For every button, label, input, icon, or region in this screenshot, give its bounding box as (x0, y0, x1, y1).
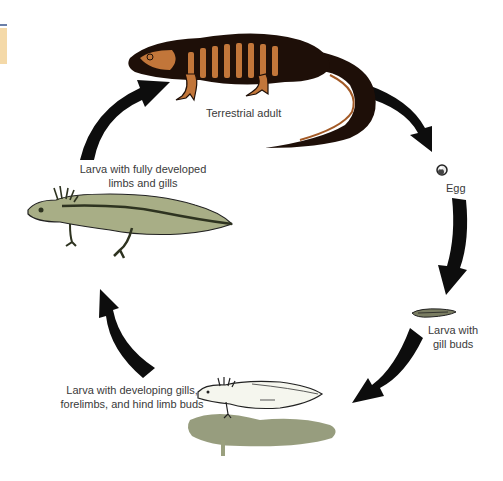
label-line: forelimbs, and hind limb buds (52, 397, 212, 411)
egg-icon (437, 165, 447, 175)
arrow-fully-to-adult (80, 80, 170, 160)
larva-fully-developed-icon (28, 186, 232, 258)
larva-shadow (188, 414, 336, 446)
larva-gill-buds-icon (412, 309, 456, 317)
label-line: Terrestrial adult (206, 106, 281, 120)
label-line: Larva with fully developed (68, 162, 218, 176)
label-larva-developing: Larva with developing gills, forelimbs, … (52, 383, 212, 411)
arrow-egg-to-gill-buds (438, 198, 467, 295)
label-line: gill buds (428, 337, 478, 351)
label-line: Egg (446, 181, 466, 195)
label-larva-fully-developed: Larva with fully developed limbs and gil… (68, 162, 218, 190)
label-egg: Egg (446, 181, 466, 195)
label-line: Larva with developing gills, (52, 383, 212, 397)
arrow-gill-buds-to-developing (352, 328, 423, 403)
cycle-arrows (80, 80, 467, 403)
arrow-developing-to-fully (99, 289, 155, 378)
label-line: limbs and gills (68, 176, 218, 190)
label-terrestrial-adult: Terrestrial adult (206, 106, 281, 120)
label-line: Larva with (428, 323, 478, 337)
adult-salamander-icon (128, 33, 375, 148)
label-larva-gill-buds: Larva with gill buds (428, 323, 478, 351)
life-cycle-diagram: Terrestrial adult Egg Larva with gill bu… (0, 0, 503, 481)
